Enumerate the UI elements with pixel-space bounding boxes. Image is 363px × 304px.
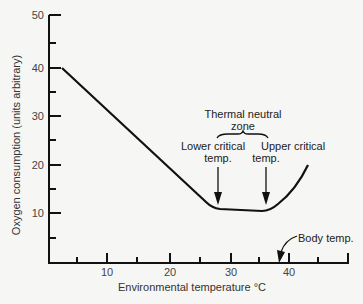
lower-critical-label-line1: Lower critical xyxy=(181,140,245,152)
y-tick-30: 30 xyxy=(32,110,44,122)
body-temp-arrow-shaft xyxy=(281,236,297,252)
x-tick-10: 10 xyxy=(101,266,113,278)
x-tick-40: 40 xyxy=(283,266,295,278)
upper-critical-label-line2: temp. xyxy=(252,152,280,164)
thermal-neutral-label-line1: Thermal neutral xyxy=(204,108,281,120)
y-tick-50: 50 xyxy=(32,9,44,21)
thermal-neutral-brace xyxy=(217,131,268,138)
x-axis-label: Environmental temperature °C xyxy=(118,281,266,293)
y-tick-40: 40 xyxy=(32,62,44,74)
lower-critical-arrow-icon xyxy=(214,192,222,205)
upper-critical-label-line1: Upper critical xyxy=(261,140,325,152)
upper-critical-arrow-icon xyxy=(262,192,270,205)
body-temp-arrow-icon xyxy=(277,250,285,263)
x-ticks xyxy=(77,253,348,263)
x-tick-30: 30 xyxy=(225,266,237,278)
y-tick-20: 20 xyxy=(32,159,44,171)
y-major-ticks xyxy=(49,15,61,213)
body-temp-label: Body temp. xyxy=(298,232,354,244)
lower-critical-label-line2: temp. xyxy=(204,152,232,164)
y-axis-label: Oxygen consumption (units arbitrary) xyxy=(10,55,22,235)
chart: 50 40 30 20 10 10 20 30 40 Environmental… xyxy=(0,0,363,304)
y-minor-ticks xyxy=(49,43,56,238)
x-tick-20: 20 xyxy=(164,266,176,278)
y-tick-10: 10 xyxy=(32,207,44,219)
